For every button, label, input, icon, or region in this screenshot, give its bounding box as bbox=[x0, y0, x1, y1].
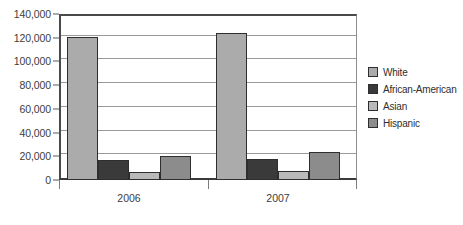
y-axis-tick-label: 60,000 bbox=[19, 103, 51, 115]
legend-swatch-icon bbox=[368, 67, 378, 77]
bar-african-american-2006 bbox=[98, 160, 129, 180]
x-axis-tick-mark bbox=[59, 180, 60, 189]
legend-swatch-icon bbox=[368, 101, 378, 111]
legend-swatch-icon bbox=[368, 84, 378, 94]
bar-white-2007 bbox=[216, 33, 247, 180]
legend-item-white[interactable]: White bbox=[368, 64, 463, 80]
legend-label: White bbox=[383, 67, 408, 78]
bar-white-2006 bbox=[67, 37, 98, 180]
y-axis-tick-label: 100,000 bbox=[14, 55, 51, 67]
legend-label: African-American bbox=[383, 84, 457, 95]
legend-label: Asian bbox=[383, 101, 407, 112]
y-axis-tick-label: 20,000 bbox=[19, 150, 51, 162]
bar-asian-2006 bbox=[129, 172, 160, 180]
x-axis-tick-mark bbox=[208, 180, 209, 189]
y-axis-tick-label: 0 bbox=[45, 174, 51, 186]
bar-hispanic-2007 bbox=[309, 152, 340, 180]
bar-group-2007 bbox=[208, 14, 357, 180]
y-axis-tick-label: 80,000 bbox=[19, 79, 51, 91]
bars-layer bbox=[59, 14, 357, 180]
y-axis: 020,00040,00060,00080,000100,000120,0001… bbox=[0, 0, 59, 225]
legend-label: Hispanic bbox=[383, 118, 420, 129]
bar-hispanic-2006 bbox=[160, 156, 191, 180]
bar-asian-2007 bbox=[278, 171, 309, 180]
chart-legend: WhiteAfrican-AmericanAsianHispanic bbox=[368, 64, 463, 132]
x-axis-label-2007: 2007 bbox=[266, 192, 289, 204]
legend-item-african-american[interactable]: African-American bbox=[368, 81, 463, 97]
bar-group-2006 bbox=[59, 14, 208, 180]
y-axis-tick-label: 40,000 bbox=[19, 127, 51, 139]
x-axis-label-2006: 2006 bbox=[117, 192, 140, 204]
bar-african-american-2007 bbox=[247, 159, 278, 180]
bar-chart: 020,00040,00060,00080,000100,000120,0001… bbox=[0, 0, 463, 225]
legend-item-asian[interactable]: Asian bbox=[368, 98, 463, 114]
legend-item-hispanic[interactable]: Hispanic bbox=[368, 115, 463, 131]
x-axis: 20062007 bbox=[59, 180, 357, 225]
y-axis-tick-label: 140,000 bbox=[14, 8, 51, 20]
x-axis-tick-mark bbox=[356, 180, 357, 189]
y-axis-tick-label: 120,000 bbox=[14, 32, 51, 44]
legend-swatch-icon bbox=[368, 118, 378, 128]
